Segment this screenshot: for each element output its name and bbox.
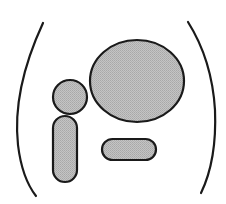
vertical-pill xyxy=(53,116,77,182)
large-ellipse xyxy=(90,40,184,122)
diagram-canvas xyxy=(0,0,226,204)
left-arc xyxy=(17,23,43,196)
horizontal-pill xyxy=(102,139,156,160)
right-arc xyxy=(188,22,215,193)
small-circle xyxy=(53,80,87,114)
